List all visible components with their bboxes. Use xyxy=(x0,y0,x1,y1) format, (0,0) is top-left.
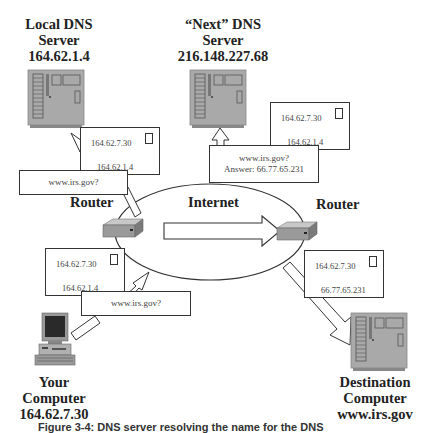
envelope-local-dns: 164.62.7.30 164.62.1.4 xyxy=(80,127,160,175)
next-dns-ip: 216.148.227.68 xyxy=(168,48,278,64)
internet-label: Internet xyxy=(188,194,239,211)
query-text: www.irs.gov? xyxy=(210,153,318,164)
destination-title-line: Destination xyxy=(328,374,422,390)
envelope-to-address: 164.62.7.30 xyxy=(91,138,131,148)
desktop-computer-icon xyxy=(35,313,75,365)
stamp-icon xyxy=(369,256,377,267)
envelope-to-address: 164.62.7.30 xyxy=(315,261,355,271)
your-computer-title-line: Your xyxy=(18,374,90,390)
envelope-next-dns: 164.62.7.30 164.62.1.4 xyxy=(270,102,350,150)
stamp-icon xyxy=(110,254,118,265)
next-dns-title-line: “Next” DNS xyxy=(168,16,278,32)
your-computer-title: Your Computer 164.62.7.30 xyxy=(18,374,90,422)
envelope-your-computer: 164.62.7.30 164.62.1.4 xyxy=(45,248,125,296)
arrow-router-to-router xyxy=(164,216,280,246)
left-router-label: Router xyxy=(70,194,114,211)
destination-hostname: www.irs.gov xyxy=(328,406,422,422)
local-dns-title-line: Local DNS xyxy=(14,16,104,32)
envelope-destination: 164.62.7.30 66.77.65.231 xyxy=(304,250,384,298)
stamp-icon xyxy=(335,108,343,119)
query-answer: Answer: 66.77.65.231 xyxy=(210,164,318,175)
next-dns-title: “Next” DNS Server 216.148.227.68 xyxy=(168,16,278,64)
your-computer-title-line: Computer xyxy=(18,390,90,406)
query-your-computer: www.irs.gov? xyxy=(81,291,191,316)
next-dns-server-icon xyxy=(190,70,246,128)
left-router-icon xyxy=(103,219,143,237)
query-next-dns: www.irs.gov? Answer: 66.77.65.231 xyxy=(209,145,319,183)
right-router-icon xyxy=(277,222,317,240)
local-dns-title: Local DNS Server 164.62.1.4 xyxy=(14,16,104,64)
envelope-to-address: 164.62.7.30 xyxy=(281,113,321,123)
local-dns-title-line: Server xyxy=(14,32,104,48)
local-dns-ip: 164.62.1.4 xyxy=(14,48,104,64)
query-local-dns: www.irs.gov? xyxy=(19,170,128,195)
stamp-icon xyxy=(145,133,153,144)
arrow-computer-to-query xyxy=(71,316,100,340)
envelope-to-address: 164.62.7.30 xyxy=(56,259,96,269)
destination-title-line: Computer xyxy=(328,390,422,406)
figure-caption: Figure 3-4: DNS server resolving the nam… xyxy=(38,421,323,433)
envelope-from-address: 66.77.65.231 xyxy=(321,285,366,295)
destination-server-icon xyxy=(351,313,407,371)
query-text: www.irs.gov? xyxy=(82,298,190,309)
local-dns-server-icon xyxy=(28,70,84,128)
next-dns-title-line: Server xyxy=(168,32,278,48)
destination-title: Destination Computer www.irs.gov xyxy=(328,374,422,422)
right-router-label: Router xyxy=(316,196,360,213)
query-text: www.irs.gov? xyxy=(20,177,127,188)
your-computer-ip: 164.62.7.30 xyxy=(18,406,90,422)
